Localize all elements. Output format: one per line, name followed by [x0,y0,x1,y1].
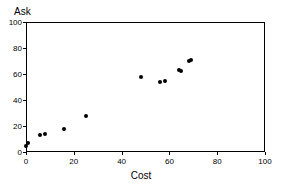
x-tick-label: 40 [117,157,126,166]
x-tick-mark [169,152,170,155]
y-tick-label: 20 [4,122,22,131]
plot-area [26,22,265,152]
y-tick-label: 40 [4,96,22,105]
x-tick-mark [74,152,75,155]
x-axis-title: Cost [0,170,282,181]
y-axis-title: Ask [14,6,31,17]
x-tick-label: 60 [165,157,174,166]
y-tick-mark [23,100,26,101]
y-tick-label: 0 [4,148,22,157]
x-tick-mark [122,152,123,155]
x-tick-mark [217,152,218,155]
scatter-plot-figure: Ask 020406080100 020406080100 Cost [0,0,282,190]
y-tick-mark [23,74,26,75]
x-tick-label: 20 [69,157,78,166]
y-tick-mark [23,48,26,49]
y-tick-label: 80 [4,44,22,53]
y-tick-mark [23,22,26,23]
x-tick-mark [26,152,27,155]
y-tick-mark [23,126,26,127]
y-tick-label: 60 [4,70,22,79]
y-tick-mark [23,152,26,153]
x-tick-label: 0 [24,157,28,166]
x-tick-label: 100 [258,157,271,166]
y-tick-label: 100 [4,18,22,27]
x-tick-mark [265,152,266,155]
x-tick-label: 80 [213,157,222,166]
